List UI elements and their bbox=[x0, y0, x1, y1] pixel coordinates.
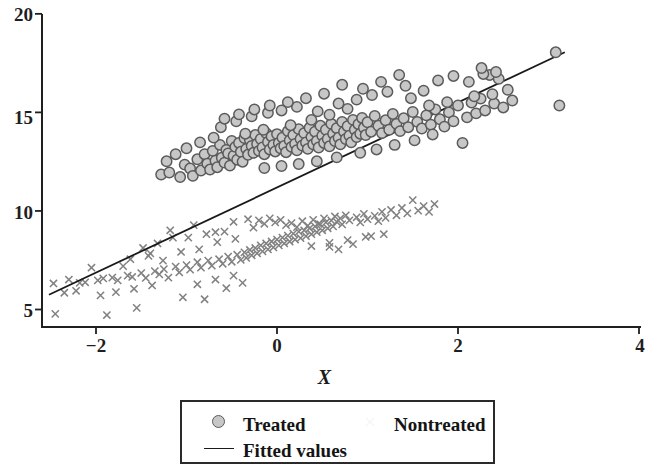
data-point-treated bbox=[476, 63, 486, 73]
data-point-treated bbox=[507, 95, 517, 105]
data-point-treated bbox=[406, 93, 416, 103]
data-point-treated bbox=[433, 75, 443, 85]
data-point-treated bbox=[371, 144, 381, 154]
data-point-treated bbox=[491, 67, 501, 77]
data-point-treated bbox=[351, 94, 361, 104]
data-point-treated bbox=[170, 149, 180, 159]
data-point-treated bbox=[175, 172, 185, 182]
data-point-treated bbox=[258, 125, 268, 135]
data-point-treated bbox=[195, 137, 205, 147]
data-point-treated bbox=[294, 159, 304, 169]
data-point-treated bbox=[457, 138, 467, 148]
y-tick-label-15: 15 bbox=[2, 108, 33, 127]
data-point-treated bbox=[418, 86, 428, 96]
data-point-treated bbox=[306, 115, 316, 125]
data-point-treated bbox=[342, 104, 352, 114]
data-point-treated bbox=[283, 97, 293, 107]
legend-nontreated-cross-icon bbox=[364, 416, 376, 428]
data-point-treated bbox=[370, 111, 380, 121]
data-point-treated bbox=[301, 93, 311, 103]
data-point-treated bbox=[240, 128, 250, 138]
x-tick-label-4: 4 bbox=[615, 336, 649, 355]
data-point-treated bbox=[219, 114, 229, 124]
y-tick-label-5: 5 bbox=[2, 301, 33, 320]
data-point-treated bbox=[469, 91, 479, 101]
data-point-treated bbox=[394, 70, 404, 80]
legend-label-treated: Treated bbox=[243, 415, 306, 434]
data-point-treated bbox=[358, 84, 368, 94]
data-point-treated bbox=[276, 161, 286, 171]
x-tick-label-0: 0 bbox=[252, 336, 302, 355]
data-point-treated bbox=[265, 100, 275, 110]
data-point-treated bbox=[400, 81, 410, 91]
data-point-treated bbox=[181, 143, 191, 153]
data-point-treated bbox=[376, 77, 386, 87]
data-point-treated bbox=[208, 132, 218, 142]
y-tick-label-20: 20 bbox=[2, 5, 33, 24]
data-point-treated bbox=[249, 104, 259, 114]
data-point-treated bbox=[409, 135, 419, 145]
data-point-treated bbox=[164, 167, 174, 177]
chart-background bbox=[0, 0, 649, 469]
data-point-treated bbox=[424, 100, 434, 110]
data-point-treated bbox=[285, 120, 295, 130]
data-point-treated bbox=[480, 105, 490, 115]
data-point-treated bbox=[388, 109, 398, 119]
chart-legend: Treated Nontreated Fitted values bbox=[180, 400, 495, 464]
legend-label-nontreated: Nontreated bbox=[394, 415, 485, 434]
data-point-treated bbox=[332, 152, 342, 162]
data-point-treated bbox=[234, 109, 244, 119]
legend-fitted-line-icon bbox=[204, 448, 234, 449]
data-point-treated bbox=[554, 100, 564, 110]
data-point-treated bbox=[442, 97, 452, 107]
data-point-treated bbox=[453, 100, 463, 110]
data-point-treated bbox=[312, 156, 322, 166]
data-point-treated bbox=[259, 163, 269, 173]
data-point-treated bbox=[408, 107, 418, 117]
scatter-chart-figure: 20 15 10 5 −2 0 2 4 X Treated Nontreated… bbox=[0, 0, 649, 469]
data-point-treated bbox=[319, 88, 329, 98]
chart-canvas bbox=[0, 0, 649, 469]
data-point-treated bbox=[324, 110, 334, 120]
x-tick-label-2: 2 bbox=[433, 336, 483, 355]
x-tick-label-minus2: −2 bbox=[71, 336, 121, 355]
data-point-treated bbox=[551, 47, 561, 57]
data-point-treated bbox=[448, 71, 458, 81]
data-point-treated bbox=[389, 140, 399, 150]
data-point-treated bbox=[367, 90, 377, 100]
data-point-treated bbox=[498, 102, 508, 112]
data-point-treated bbox=[448, 116, 458, 126]
legend-label-fitted: Fitted values bbox=[243, 441, 347, 460]
data-point-treated bbox=[161, 156, 171, 166]
data-point-treated bbox=[337, 80, 347, 90]
data-point-treated bbox=[464, 77, 474, 87]
data-point-treated bbox=[487, 89, 497, 99]
data-point-treated bbox=[503, 85, 513, 95]
data-point-treated bbox=[427, 129, 437, 139]
y-tick-label-10: 10 bbox=[2, 203, 33, 222]
data-point-treated bbox=[355, 148, 365, 158]
x-axis-title: X bbox=[0, 366, 649, 389]
legend-treated-circle-icon bbox=[212, 415, 225, 428]
data-point-treated bbox=[382, 87, 392, 97]
